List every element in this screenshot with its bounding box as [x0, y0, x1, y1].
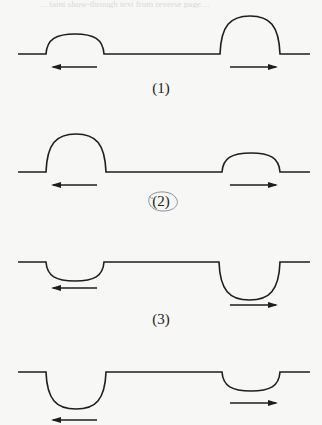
arrowhead-left-icon: [51, 285, 61, 291]
arrowhead-left-icon: [51, 417, 61, 423]
panel-label-2: (2): [152, 193, 170, 210]
wave-string-1: [18, 16, 310, 54]
arrowhead-left-icon: [51, 182, 61, 188]
arrowhead-left-icon: [51, 64, 61, 70]
panel-label-1: (1): [152, 80, 170, 97]
arrowhead-right-icon: [268, 182, 278, 188]
panel-label-3: (3): [152, 311, 170, 328]
arrowhead-right-icon: [268, 400, 278, 406]
wave-pulse-diagram: …faint show-through text from reverse pa…: [0, 0, 322, 425]
wave-string-2: [18, 134, 310, 172]
arrowhead-right-icon: [268, 302, 278, 308]
wave-string-3: [18, 262, 310, 300]
arrowhead-right-icon: [268, 64, 278, 70]
pulse-figures: [0, 0, 322, 425]
